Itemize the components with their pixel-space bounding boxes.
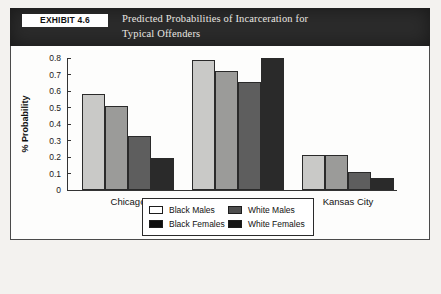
legend-label: White Females	[248, 219, 305, 229]
bar-group	[192, 58, 284, 190]
chart-legend: Black Males White Males Black Females Wh…	[142, 198, 314, 236]
legend-item-black-females: Black Females	[149, 219, 228, 229]
legend-row: Black Males White Males	[149, 203, 307, 217]
tick-mark	[67, 140, 71, 141]
tick-mark	[67, 124, 71, 125]
exhibit-container: EXHIBIT 4.6 Predicted Probabilities of I…	[10, 8, 430, 240]
y-axis-tick: 0.7	[49, 70, 67, 80]
bar	[151, 158, 174, 190]
bar	[215, 71, 238, 190]
legend-swatch-icon	[228, 206, 242, 214]
y-axis-tick: 0.3	[49, 136, 67, 146]
y-axis-tick: 0.2	[49, 152, 67, 162]
bar-group	[82, 58, 174, 190]
legend-row: Black Females White Females	[149, 217, 307, 231]
bar	[192, 60, 215, 190]
bar	[238, 82, 261, 190]
x-axis-line	[67, 190, 397, 191]
legend-item-black-males: Black Males	[149, 205, 228, 215]
y-axis-tick: 0.5	[49, 103, 67, 113]
bar	[128, 136, 151, 190]
y-axis-tick: 0.6	[49, 86, 67, 96]
exhibit-header: EXHIBIT 4.6 Predicted Probabilities of I…	[10, 8, 430, 46]
legend-item-white-females: White Females	[228, 219, 307, 229]
bar	[325, 155, 348, 190]
tick-mark	[67, 157, 71, 158]
legend-swatch-icon	[228, 220, 242, 228]
tick-mark	[67, 74, 71, 75]
y-axis-tick: 0.1	[49, 169, 67, 179]
exhibit-title: Predicted Probabilities of Incarceration…	[122, 12, 422, 41]
y-axis-tick: 0.8	[49, 53, 67, 63]
exhibit-number-tag: EXHIBIT 4.6	[22, 14, 108, 27]
y-axis-label: % Probability	[20, 95, 30, 152]
legend-label: Black Males	[169, 205, 215, 215]
tick-mark	[67, 190, 71, 191]
y-axis-tick: 0	[56, 185, 67, 195]
x-axis-category-label: Kansas City	[323, 196, 374, 207]
bar	[302, 155, 325, 190]
legend-label: Black Females	[169, 219, 225, 229]
bar-group	[302, 58, 394, 190]
bar	[371, 178, 394, 190]
exhibit-title-line-1: Predicted Probabilities of Incarceration…	[122, 12, 422, 27]
legend-swatch-icon	[149, 220, 163, 228]
legend-item-white-males: White Males	[228, 205, 307, 215]
legend-label: White Males	[248, 205, 295, 215]
legend-swatch-icon	[149, 206, 163, 214]
bar	[348, 172, 371, 190]
chart-panel: % Probability 00.10.20.30.40.50.60.70.8C…	[10, 46, 430, 240]
plot-area: 00.10.20.30.40.50.60.70.8ChicagoMiamiKan…	[67, 58, 397, 190]
bar	[261, 58, 284, 190]
exhibit-screenshot: EXHIBIT 4.6 Predicted Probabilities of I…	[0, 0, 441, 294]
tick-mark	[67, 58, 71, 59]
bar	[105, 106, 128, 190]
tick-mark	[67, 91, 71, 92]
exhibit-title-line-2: Typical Offenders	[122, 27, 422, 42]
y-axis-tick: 0.4	[49, 119, 67, 129]
x-axis-category-label: Chicago	[111, 196, 146, 207]
bar	[82, 94, 105, 190]
tick-mark	[67, 107, 71, 108]
tick-mark	[67, 173, 71, 174]
